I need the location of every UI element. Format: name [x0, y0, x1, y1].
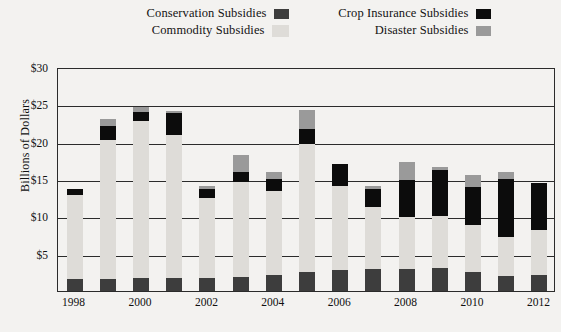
y-axis-tick-label: $5: [37, 249, 49, 261]
bar-segment-commodity-subsidies-2011: [498, 237, 514, 277]
bar-column-2008: [399, 162, 415, 291]
bar-segment-conservation-subsidies-2004: [266, 275, 282, 291]
bar-segment-crop-insurance-subsidies-2011: [498, 179, 514, 236]
bar-column-2010: [465, 175, 481, 291]
x-axis-tick-label: 2008: [394, 296, 417, 308]
bar-segment-crop-insurance-subsidies-2005: [299, 129, 315, 144]
bar-segment-crop-insurance-subsidies-2003: [233, 172, 249, 182]
bar-segment-conservation-subsidies-2010: [465, 272, 481, 291]
bar-segment-conservation-subsidies-2008: [399, 269, 415, 291]
legend-label: Commodity Subsidies: [152, 23, 265, 38]
bar-segment-conservation-subsidies-2009: [432, 268, 448, 291]
bar-segment-crop-insurance-subsidies-2012: [531, 183, 547, 230]
bar-segment-commodity-subsidies-2003: [233, 182, 249, 277]
bar-column-2002: [199, 186, 215, 291]
legend-item-conservation-subsidies: Conservation Subsidies: [71, 6, 289, 21]
legend-label: Crop Insurance Subsidies: [338, 6, 468, 21]
bar-column-1999: [100, 119, 116, 291]
bar-segment-crop-insurance-subsidies-2006: [332, 164, 348, 186]
x-axis-tick-label: 2006: [328, 296, 351, 308]
y-axis-tick-label: $25: [31, 99, 48, 111]
bar-segment-conservation-subsidies-2002: [199, 278, 215, 291]
bar-segment-commodity-subsidies-2007: [365, 207, 381, 270]
legend-item-commodity-subsidies: Commodity Subsidies: [71, 23, 289, 38]
bar-column-2001: [166, 111, 182, 291]
bar-segment-disaster-subsidies-2005: [299, 110, 315, 129]
bar-segment-conservation-subsidies-1998: [67, 279, 83, 291]
bar-segment-commodity-subsidies-2002: [199, 198, 215, 278]
bar-series-group: [58, 69, 554, 291]
bar-segment-conservation-subsidies-2001: [166, 278, 182, 291]
bar-segment-conservation-subsidies-2000: [133, 278, 149, 291]
x-axis-tick-label: 2000: [129, 296, 152, 308]
bar-segment-commodity-subsidies-2004: [266, 191, 282, 275]
bar-segment-crop-insurance-subsidies-2009: [432, 170, 448, 216]
bar-segment-disaster-subsidies-1999: [100, 119, 116, 126]
y-axis-tick-labels: $5$10$15$20$25$30: [0, 68, 52, 292]
plot-area: [57, 68, 555, 292]
bar-segment-disaster-subsidies-2007: [365, 186, 381, 188]
x-axis-tick-labels: 19982000200220042006200820102012: [57, 296, 555, 320]
bar-column-2003: [233, 155, 249, 291]
legend-swatch-commodity-subsidies: [272, 25, 289, 37]
legend-label: Conservation Subsidies: [147, 6, 267, 21]
bar-segment-crop-insurance-subsidies-2002: [199, 189, 215, 198]
bar-segment-crop-insurance-subsidies-2000: [133, 112, 149, 121]
bar-segment-commodity-subsidies-2000: [133, 121, 149, 279]
x-axis-tick-label: 2002: [195, 296, 218, 308]
bar-column-2000: [133, 107, 149, 291]
bar-segment-conservation-subsidies-2006: [332, 270, 348, 291]
x-axis-tick-label: 1998: [62, 296, 85, 308]
bar-column-2006: [332, 164, 348, 291]
bar-segment-conservation-subsidies-2005: [299, 272, 315, 291]
bar-segment-commodity-subsidies-2005: [299, 144, 315, 272]
bar-segment-crop-insurance-subsidies-2010: [465, 187, 481, 224]
bar-segment-commodity-subsidies-2008: [399, 217, 415, 269]
bar-column-2005: [299, 110, 315, 291]
x-axis-tick-label: 2010: [461, 296, 484, 308]
bar-column-2009: [432, 167, 448, 291]
bar-segment-crop-insurance-subsidies-1998: [67, 189, 83, 194]
bar-segment-disaster-subsidies-2000: [133, 107, 149, 111]
plot-wrap: [57, 68, 555, 292]
legend-row: Conservation Subsidies Crop Insurance Su…: [71, 6, 491, 21]
bar-column-1998: [67, 189, 83, 291]
bar-segment-commodity-subsidies-2006: [332, 186, 348, 270]
legend-item-crop-insurance-subsidies: Crop Insurance Subsidies: [289, 6, 491, 21]
bar-segment-disaster-subsidies-2002: [199, 186, 215, 189]
bar-segment-crop-insurance-subsidies-2004: [266, 179, 282, 191]
bar-segment-commodity-subsidies-2012: [531, 230, 547, 276]
bar-segment-commodity-subsidies-2009: [432, 216, 448, 268]
bar-column-2011: [498, 172, 514, 291]
bar-segment-crop-insurance-subsidies-2007: [365, 189, 381, 207]
bar-segment-disaster-subsidies-2001: [166, 111, 182, 113]
bar-segment-conservation-subsidies-1999: [100, 279, 116, 291]
legend-swatch-crop-insurance-subsidies: [476, 9, 491, 19]
bar-segment-commodity-subsidies-2010: [465, 225, 481, 272]
bar-segment-disaster-subsidies-2008: [399, 162, 415, 180]
legend-label: Disaster Subsidies: [375, 23, 469, 38]
legend-swatch-disaster-subsidies: [476, 26, 491, 36]
bar-segment-conservation-subsidies-2003: [233, 277, 249, 291]
bar-segment-crop-insurance-subsidies-2008: [399, 180, 415, 217]
legend-item-disaster-subsidies: Disaster Subsidies: [289, 23, 491, 38]
bar-column-2012: [531, 183, 547, 291]
bar-segment-conservation-subsidies-2012: [531, 275, 547, 291]
x-axis-tick-label: 2004: [261, 296, 284, 308]
legend-row: Commodity Subsidies Disaster Subsidies: [71, 23, 491, 38]
bar-segment-commodity-subsidies-1998: [67, 195, 83, 279]
y-axis-tick-label: $15: [31, 174, 48, 186]
bar-segment-crop-insurance-subsidies-1999: [100, 126, 116, 140]
bar-column-2007: [365, 186, 381, 291]
bar-segment-commodity-subsidies-2001: [166, 135, 182, 278]
legend-swatch-conservation-subsidies: [274, 9, 289, 19]
y-axis-tick-label: $30: [31, 62, 48, 74]
y-axis-tick-label: $20: [31, 137, 48, 149]
bar-segment-disaster-subsidies-2003: [233, 155, 249, 171]
bar-column-2004: [266, 172, 282, 291]
bar-segment-disaster-subsidies-2009: [432, 167, 448, 170]
bar-segment-disaster-subsidies-2010: [465, 175, 481, 187]
x-axis-tick-label: 2012: [527, 296, 550, 308]
chart-legend: Conservation Subsidies Crop Insurance Su…: [0, 6, 561, 38]
bar-segment-crop-insurance-subsidies-2001: [166, 113, 182, 135]
